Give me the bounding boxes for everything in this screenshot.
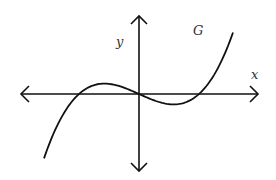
y-axis-label: y [115,34,124,49]
cubic-graph: y x G [0,0,276,180]
x-axis-label: x [251,67,259,82]
curve-label: G [193,23,203,38]
